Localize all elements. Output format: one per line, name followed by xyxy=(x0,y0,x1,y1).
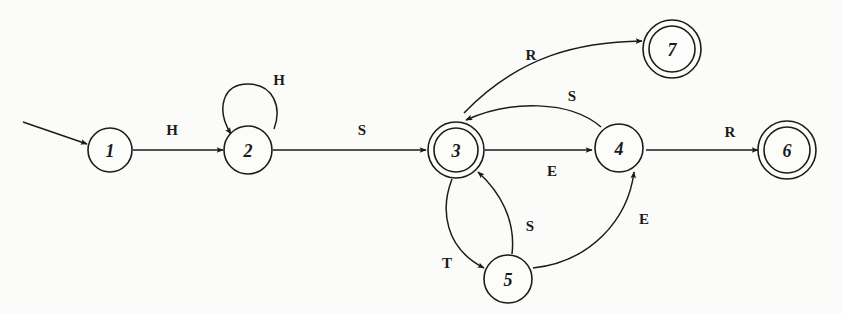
edge-label: T xyxy=(442,255,452,271)
edge-1-2: H xyxy=(133,122,223,150)
start-arrow xyxy=(23,122,87,144)
svg-text:2: 2 xyxy=(243,141,253,161)
edge-3-4: E xyxy=(485,150,592,179)
edge-2-3: S xyxy=(273,122,426,150)
edge-5-4: E xyxy=(533,172,649,268)
state-3-accepting: 3 xyxy=(428,122,484,178)
svg-text:5: 5 xyxy=(504,270,513,290)
edge-4-6: R xyxy=(646,124,758,150)
edge-2-2-loop: H xyxy=(223,72,285,134)
svg-text:3: 3 xyxy=(451,141,461,161)
edge-3-7: R xyxy=(464,41,642,113)
edge-label: H xyxy=(166,122,178,138)
edge-label: S xyxy=(358,122,366,138)
edge-label: R xyxy=(526,47,537,63)
svg-text:4: 4 xyxy=(614,139,624,159)
svg-text:1: 1 xyxy=(106,141,115,161)
edge-3-5: T xyxy=(442,179,484,271)
svg-text:7: 7 xyxy=(668,40,678,60)
edge-label: R xyxy=(725,124,736,140)
state-6-accepting: 6 xyxy=(758,121,816,179)
state-1: 1 xyxy=(88,128,132,172)
edge-label: S xyxy=(568,88,576,104)
edge-4-3: S xyxy=(466,88,601,127)
edge-5-3: S xyxy=(478,172,534,254)
state-7-accepting: 7 xyxy=(643,20,701,78)
edge-label: E xyxy=(639,211,649,227)
svg-text:6: 6 xyxy=(783,141,792,161)
edge-label: H xyxy=(273,72,285,88)
state-5: 5 xyxy=(484,255,532,303)
state-2: 2 xyxy=(224,126,272,174)
edge-label: S xyxy=(526,218,534,234)
state-4: 4 xyxy=(595,124,643,172)
fsa-diagram: H H S R E S R T S E 1 xyxy=(0,0,843,314)
edge-label: E xyxy=(547,163,557,179)
